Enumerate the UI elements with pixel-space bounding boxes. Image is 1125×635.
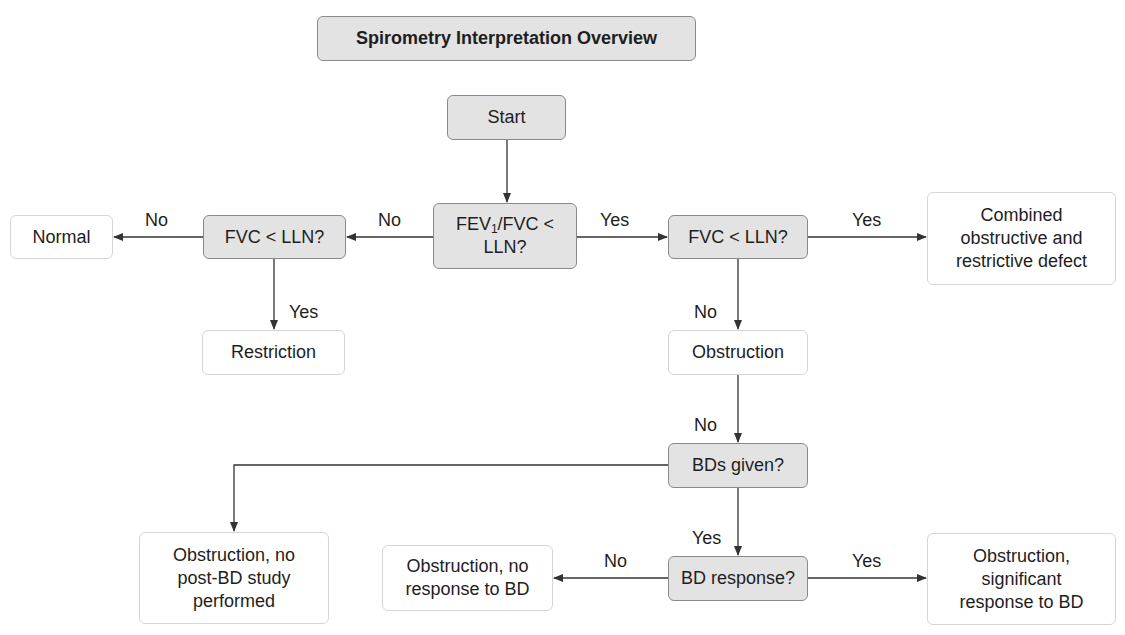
- no-response-label: Obstruction, no response to BD: [395, 555, 540, 601]
- fev1-fvc-line2: LLN?: [483, 236, 526, 259]
- combined-defect-label: Combined obstructive and restrictive def…: [942, 204, 1101, 273]
- edge-label-fev1-no: No: [378, 210, 401, 230]
- normal-outcome-node[interactable]: Normal: [10, 215, 113, 259]
- edge-label-fvc-right-no: No: [694, 302, 717, 322]
- edge-label-fev1-yes: Yes: [600, 210, 629, 230]
- bd-response-decision-node[interactable]: BD response?: [668, 556, 808, 601]
- bds-given-decision-node[interactable]: BDs given?: [668, 443, 808, 488]
- bd-response-label: BD response?: [681, 567, 795, 590]
- edge-label-bd-response-no: No: [604, 551, 627, 571]
- significant-response-label: Obstruction, significant response to BD: [950, 545, 1093, 614]
- diagram-title-text: Spirometry Interpretation Overview: [356, 27, 657, 50]
- edge-label-obstruction-no: No: [694, 415, 717, 435]
- obstruction-outcome-node[interactable]: Obstruction: [668, 330, 808, 375]
- fvc-right-label: FVC < LLN?: [688, 226, 788, 249]
- normal-label: Normal: [32, 226, 90, 249]
- edge-label-bd-response-yes: Yes: [852, 551, 881, 571]
- no-post-bd-outcome-node[interactable]: Obstruction, no post-BD study performed: [139, 532, 329, 624]
- start-node-label: Start: [487, 106, 525, 129]
- edge-label-bds-yes: Yes: [692, 528, 721, 548]
- obstruction-label: Obstruction: [692, 341, 784, 364]
- fev1-fvc-decision-node[interactable]: FEV1/FVC < LLN?: [433, 203, 577, 269]
- significant-response-outcome-node[interactable]: Obstruction, significant response to BD: [927, 533, 1116, 625]
- no-response-outcome-node[interactable]: Obstruction, no response to BD: [382, 545, 553, 611]
- diagram-title: Spirometry Interpretation Overview: [317, 16, 696, 61]
- flowchart-canvas: Spirometry Interpretation Overview Start…: [0, 0, 1125, 635]
- fvc-left-decision-node[interactable]: FVC < LLN?: [203, 215, 346, 259]
- restriction-label: Restriction: [231, 341, 316, 364]
- fvc-right-decision-node[interactable]: FVC < LLN?: [668, 215, 808, 259]
- edge-label-fvc-left-no: No: [145, 210, 168, 230]
- no-post-bd-label: Obstruction, no post-BD study performed: [162, 544, 306, 613]
- edge-label-fvc-right-yes: Yes: [852, 210, 881, 230]
- bds-given-label: BDs given?: [692, 454, 784, 477]
- combined-defect-outcome-node[interactable]: Combined obstructive and restrictive def…: [927, 192, 1116, 285]
- start-node[interactable]: Start: [447, 95, 566, 140]
- edge-label-fvc-left-yes: Yes: [289, 302, 318, 322]
- restriction-outcome-node[interactable]: Restriction: [202, 330, 345, 375]
- fvc-left-label: FVC < LLN?: [225, 226, 325, 249]
- fev1-fvc-line1: FEV1/FVC <: [456, 213, 554, 236]
